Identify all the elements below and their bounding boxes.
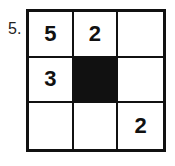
grid-cell-r1c0: 3 [29,58,74,104]
puzzle-grid: 5 2 3 2 [26,9,166,152]
grid-cell-r0c1: 2 [74,12,119,58]
grid-cell-r0c2 [118,12,163,58]
puzzle-number: 5. [8,20,21,38]
grid-cell-r2c0 [29,103,74,149]
shaded-cell-r1c1 [74,58,119,104]
grid-cell-r1c2 [118,58,163,104]
grid-cell-r0c0: 5 [29,12,74,58]
grid-cell-r2c2: 2 [118,103,163,149]
grid-cell-r2c1 [74,103,119,149]
